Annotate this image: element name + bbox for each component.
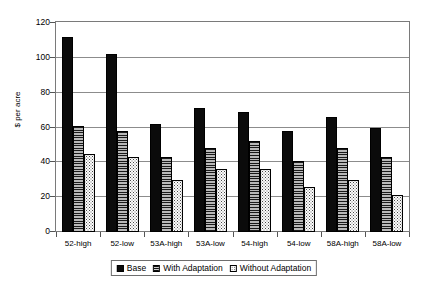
legend-swatch-base	[117, 265, 124, 272]
bar-base	[150, 124, 161, 232]
bar-base	[282, 131, 293, 232]
y-axis-tick-label: 100	[10, 52, 50, 62]
bar-base	[370, 128, 381, 233]
bar-with	[381, 157, 392, 232]
bar-group	[233, 22, 277, 232]
legend-swatch-with	[153, 265, 160, 272]
legend-swatch-without	[230, 265, 237, 272]
legend-label: Without Adaptation	[240, 263, 311, 273]
bar-with	[205, 148, 216, 232]
bar-without	[84, 154, 95, 232]
x-axis-tickmark	[277, 232, 278, 237]
bar-group	[321, 22, 365, 232]
bar-base	[106, 54, 117, 232]
legend-label: With Adaptation	[163, 263, 223, 273]
x-axis-tick-label: 52-high	[56, 239, 100, 248]
bar-with	[117, 131, 128, 232]
bar-chart: $ per acre 020406080100120 52-high52-low…	[0, 0, 428, 291]
legend-item: Base	[117, 263, 146, 273]
bar-group	[144, 22, 188, 232]
y-axis-tick-label: 40	[10, 156, 50, 166]
bar-without	[348, 180, 359, 232]
y-axis-tick-label: 0	[10, 226, 50, 236]
y-axis-tick-label: 60	[10, 122, 50, 132]
chart-legend: BaseWith AdaptationWithout Adaptation	[111, 260, 317, 276]
bar-with	[293, 161, 304, 232]
legend-label: Base	[127, 263, 146, 273]
x-axis-tick-label: 54-low	[277, 239, 321, 248]
bar-without	[216, 169, 227, 232]
x-axis-tickmark	[233, 232, 234, 237]
x-axis-tickmark	[188, 232, 189, 237]
x-axis-tickmark	[100, 232, 101, 237]
bar-base	[238, 112, 249, 232]
bar-base	[62, 37, 73, 232]
x-axis-tickmarks	[56, 232, 409, 238]
legend-item: With Adaptation	[153, 263, 223, 273]
legend-item: Without Adaptation	[230, 263, 311, 273]
x-axis-tickmark	[56, 232, 57, 237]
bar-with	[337, 148, 348, 232]
bar-with	[161, 157, 172, 232]
y-axis-tick-label: 120	[10, 17, 50, 27]
bar-with	[73, 126, 84, 232]
bar-without	[172, 180, 183, 232]
x-axis-tick-label: 58A-high	[321, 239, 365, 248]
bar-group	[188, 22, 232, 232]
x-axis-tick-label: 52-low	[100, 239, 144, 248]
x-axis-tickmark	[409, 232, 410, 237]
y-axis-tick-label: 20	[10, 191, 50, 201]
x-axis-tickmark	[365, 232, 366, 237]
bar-groups	[56, 22, 409, 232]
bar-group	[100, 22, 144, 232]
y-axis-tick-label: 80	[10, 87, 50, 97]
y-axis-title: $ per acre	[13, 75, 22, 145]
x-axis-tick-label: 53A-low	[188, 239, 232, 248]
x-axis-tick-label: 54-high	[233, 239, 277, 248]
bar-group	[277, 22, 321, 232]
bar-base	[326, 117, 337, 232]
bar-group	[365, 22, 409, 232]
x-axis-labels: 52-high52-low53A-high53A-low54-high54-lo…	[56, 239, 409, 248]
bar-without	[260, 169, 271, 232]
bar-with	[249, 141, 260, 232]
x-axis-tick-label: 58A-low	[365, 239, 409, 248]
bar-base	[194, 108, 205, 232]
x-axis-tickmark	[321, 232, 322, 237]
bar-without	[128, 157, 139, 232]
bar-group	[56, 22, 100, 232]
x-axis-tickmark	[144, 232, 145, 237]
x-axis-tick-label: 53A-high	[144, 239, 188, 248]
bar-without	[304, 187, 315, 232]
bar-without	[392, 195, 403, 232]
